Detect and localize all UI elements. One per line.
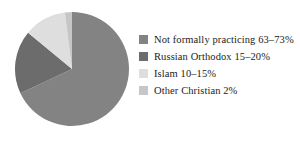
pie-slices [15,12,129,126]
legend-label-russian-orthodox: Russian Orthodox 15–20% [154,51,270,63]
pie-chart-figure: Not formally practicing 63–73% Russian O… [0,0,300,141]
pie-chart [14,11,130,127]
legend-item-not-formally-practicing: Not formally practicing 63–73% [139,31,297,48]
legend-swatch-russian-orthodox [139,52,148,61]
legend-label-islam: Islam 10–15% [154,68,216,80]
legend-swatch-other-christian [139,86,148,95]
legend-item-other-christian: Other Christian 2% [139,82,297,99]
pie-chart-svg [14,11,130,127]
legend-item-russian-orthodox: Russian Orthodox 15–20% [139,48,297,65]
legend-swatch-not-formally-practicing [139,35,148,44]
chart-legend: Not formally practicing 63–73% Russian O… [139,31,297,99]
legend-label-not-formally-practicing: Not formally practicing 63–73% [154,34,294,46]
legend-item-islam: Islam 10–15% [139,65,297,82]
legend-label-other-christian: Other Christian 2% [154,85,237,97]
legend-swatch-islam [139,69,148,78]
